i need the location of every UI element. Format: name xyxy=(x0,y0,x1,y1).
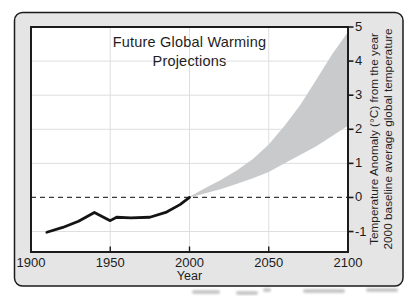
y-tick-label: 2 xyxy=(355,121,377,136)
x-tick-label: 1950 xyxy=(88,255,132,270)
y-tick-label: 1 xyxy=(355,155,377,170)
y-tick-label: 3 xyxy=(355,87,377,102)
figure: Future Global Warming Projections Year T… xyxy=(0,0,413,296)
y-tick-label: -1 xyxy=(355,224,377,239)
x-tick-label: 2000 xyxy=(168,255,212,270)
chart-title: Future Global Warming Projections xyxy=(31,33,348,70)
x-tick-label: 2100 xyxy=(326,255,370,270)
y-tick-label: 5 xyxy=(355,19,377,34)
x-axis-title: Year xyxy=(31,269,348,283)
y-axis-title-line2: 2000 baseline average global temperature xyxy=(381,28,395,249)
y-tick-label: 0 xyxy=(355,189,377,204)
chart-title-line1: Future Global Warming xyxy=(31,33,348,52)
x-tick-label: 2050 xyxy=(247,255,291,270)
y-tick-label: 4 xyxy=(355,53,377,68)
chart-title-line2: Projections xyxy=(31,52,348,71)
x-tick-label: 1900 xyxy=(9,255,53,270)
